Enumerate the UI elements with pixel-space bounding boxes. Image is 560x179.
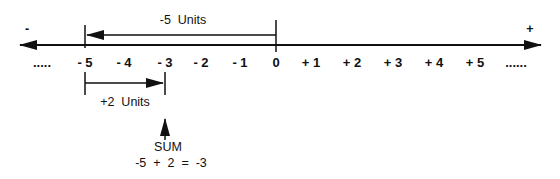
tick-label: - 1: [232, 55, 247, 70]
number-line-drawing: [0, 0, 560, 179]
tick-label: - 5: [77, 55, 92, 70]
positive-sign: +: [526, 22, 533, 36]
tick-label: + 1: [302, 55, 320, 70]
sum-label: SUM: [154, 140, 182, 154]
tick-label: 0: [272, 55, 279, 70]
negative-sign: -: [25, 22, 29, 36]
plus-two-units-label: +2 Units: [100, 95, 150, 109]
tick-label: + 5: [466, 55, 484, 70]
left-ellipsis: .....: [33, 55, 51, 70]
right-ellipsis: ......: [505, 55, 527, 70]
tick-label: - 2: [193, 55, 208, 70]
tick-label: - 3: [157, 55, 172, 70]
plus-two-units-arrow: [85, 72, 165, 95]
tick-label: + 2: [343, 55, 361, 70]
tick-label: + 4: [425, 55, 443, 70]
tick-label: - 4: [116, 55, 131, 70]
tick-label: + 3: [384, 55, 402, 70]
minus-five-units-label: -5 Units: [160, 13, 207, 27]
sum-equation: -5 + 2 = -3: [135, 156, 207, 170]
